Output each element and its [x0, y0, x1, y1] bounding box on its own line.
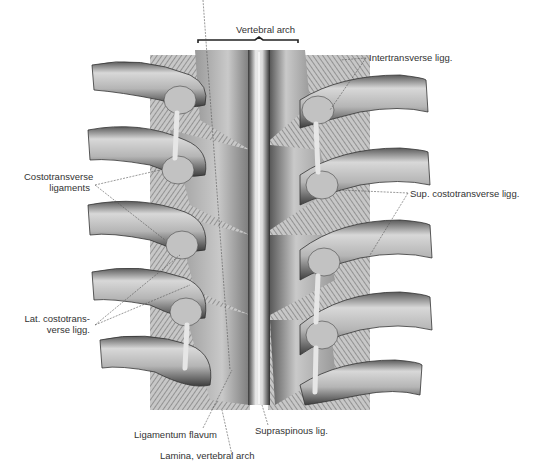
label-ligamentum-flavum: Ligamentum flavum	[134, 429, 217, 440]
label-sup-costotransverse-ligg: Sup. costotransverse ligg.	[410, 188, 519, 199]
label-costotransverse-line1: Costotransverse	[24, 171, 90, 182]
label-vertebral-arch: Vertebral arch	[236, 24, 295, 35]
thoracic-spine-illustration	[0, 0, 538, 476]
vertebral-arch-bracket	[198, 37, 298, 43]
label-lat-costotransverse-line1: Lat. costotrans-	[18, 313, 90, 324]
label-supraspinous-lig: Supraspinous lig.	[255, 425, 328, 436]
label-lamina-vertebral-arch: Lamina, vertebral arch	[160, 450, 255, 461]
anatomical-figure: Vertebral arch Intertransverse ligg. Cos…	[0, 0, 538, 476]
label-lat-costotransverse-line2: verse ligg.	[18, 324, 90, 335]
supraspinous-ligament	[248, 50, 270, 405]
label-intertransverse-ligg: Intertransverse ligg.	[369, 52, 452, 63]
label-costotransverse-line2: ligaments	[24, 182, 90, 193]
